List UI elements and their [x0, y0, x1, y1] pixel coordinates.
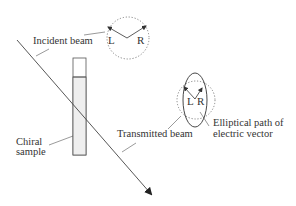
incident-beam-label: Incident beam: [33, 35, 93, 46]
elliptical-path-label-1: Elliptical path of: [213, 117, 284, 128]
incident-label-leader: [84, 32, 105, 35]
incident-right-vector-label: R: [137, 34, 145, 46]
transmitted-polarization: [177, 73, 215, 127]
elliptical-path-leader: [200, 112, 209, 126]
transmitted-right-vector-label: R: [197, 95, 205, 107]
transmitted-beam-label: Transmitted beam: [117, 128, 193, 139]
elliptical-path-label-2: electric vector: [213, 128, 273, 139]
chiral-sample-leader: [49, 136, 73, 145]
incident-left-vector-label: L: [108, 34, 115, 46]
incident-beam-leader: [36, 49, 49, 56]
chiral-diagram: L R Incident beam Chiral sample L R Tran…: [0, 0, 296, 206]
chiral-sample-label-2: sample: [16, 146, 46, 157]
transmitted-left-vector-label: L: [187, 95, 194, 107]
transmitted-beam-leader: [122, 143, 136, 152]
